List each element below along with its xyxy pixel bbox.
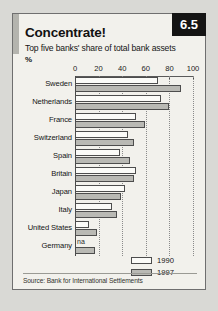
bar-1997 xyxy=(75,229,97,236)
x-axis-tick-label: 40 xyxy=(118,64,126,73)
category-label: Sweden xyxy=(45,79,72,88)
source-divider xyxy=(23,273,197,274)
category-label: France xyxy=(49,115,72,124)
bar-1990 xyxy=(75,203,112,210)
category-label: Switzerland xyxy=(34,133,72,142)
figure-number-badge: 6.5 xyxy=(172,13,206,36)
bar-1990 xyxy=(75,113,136,120)
category-label: United States xyxy=(28,223,72,232)
bar-row: Britain xyxy=(75,167,193,185)
bar-row: Italy xyxy=(75,203,193,221)
page-title: Concentrate! xyxy=(25,25,106,40)
bar-row: Switzerland xyxy=(75,131,193,149)
x-axis-tick-label: 20 xyxy=(94,64,102,73)
bar-row: Japan xyxy=(75,185,193,203)
bar-1990 xyxy=(75,95,161,102)
x-axis-tick-label: 60 xyxy=(142,64,150,73)
bar-1997 xyxy=(75,157,130,164)
bar-row: United States xyxy=(75,221,193,239)
category-label: Netherlands xyxy=(32,97,72,106)
not-available-label: na xyxy=(77,238,85,245)
category-label: Japan xyxy=(52,187,72,196)
bar-1990 xyxy=(75,131,128,138)
bar-1990 xyxy=(75,185,125,192)
bar-1997 xyxy=(75,121,145,128)
x-axis-tick-label: 80 xyxy=(165,64,173,73)
bar-1997 xyxy=(75,85,181,92)
chart-card: 6.5 Concentrate! Top five banks' share o… xyxy=(12,13,206,290)
category-label: Spain xyxy=(53,151,72,160)
bar-row: France xyxy=(75,113,193,131)
gridline xyxy=(193,76,194,256)
bar-1997 xyxy=(75,103,169,110)
category-label: Britain xyxy=(51,169,72,178)
x-axis-tick-label: 0 xyxy=(73,64,77,73)
axis-unit-label: % xyxy=(25,55,32,64)
x-axis-tick-label: 100 xyxy=(187,64,200,73)
category-label: Germany xyxy=(41,241,72,250)
bar-row: Sweden xyxy=(75,77,193,95)
bar-row: Germanyna xyxy=(75,239,193,257)
bar-1990 xyxy=(75,149,120,156)
chart-page: 6.5 Concentrate! Top five banks' share o… xyxy=(0,0,218,311)
category-label: Italy xyxy=(59,205,72,214)
bar-1997 xyxy=(75,211,117,218)
bar-1990 xyxy=(75,221,89,228)
bar-row: Netherlands xyxy=(75,95,193,113)
legend-item: 1990 xyxy=(131,256,174,265)
source-note: Source: Bank for International Settlemen… xyxy=(23,277,143,284)
chart-subtitle: Top five banks' share of total bank asse… xyxy=(25,43,176,53)
bar-1997 xyxy=(75,193,121,200)
plot-area: 020406080100 SwedenNetherlandsFranceSwit… xyxy=(75,76,193,256)
bar-row: Spain xyxy=(75,149,193,167)
legend-swatch xyxy=(131,257,152,264)
accent-bar xyxy=(13,14,19,54)
bar-1997 xyxy=(75,175,134,182)
legend-label: 1990 xyxy=(157,256,174,265)
bar-1990 xyxy=(75,77,158,84)
bar-1990 xyxy=(75,167,136,174)
bar-1997 xyxy=(75,247,95,254)
bar-1997 xyxy=(75,139,134,146)
